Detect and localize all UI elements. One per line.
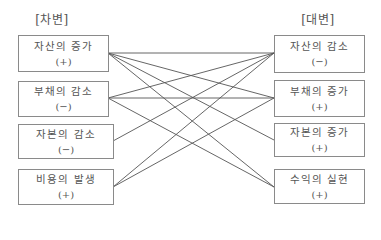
credit-box-asset-decrease: 자산의 감소 (−) — [274, 35, 365, 73]
box-sign: (+) — [311, 99, 327, 114]
box-label: 부채의 증가 — [290, 84, 349, 99]
box-sign: (−) — [311, 54, 327, 69]
line-expense-to-asset-dec — [113, 53, 274, 187]
credit-box-revenue-realized: 수익의 실현 (+) — [274, 169, 365, 204]
box-sign: (−) — [58, 142, 74, 157]
credit-box-liability-increase: 부채의 증가 (+) — [274, 80, 365, 117]
box-label: 수익의 실현 — [290, 172, 349, 187]
box-label: 자본의 감소 — [36, 127, 95, 142]
box-sign: (+) — [311, 140, 327, 155]
line-asset-inc-to-revenue — [108, 53, 274, 187]
box-label: 부채의 감소 — [34, 84, 93, 99]
debit-box-liability-decrease: 부채의 감소 (−) — [18, 81, 109, 117]
box-sign: (+) — [55, 54, 71, 69]
debit-box-expense-incurred: 비용의 발생 (+) — [18, 169, 114, 205]
box-label: 자산의 감소 — [290, 39, 349, 54]
box-label: 자본의 증가 — [290, 125, 349, 140]
credit-box-equity-increase: 자본의 증가 (+) — [274, 123, 365, 157]
debit-box-asset-increase: 자산의 증가 (+) — [18, 35, 109, 72]
debit-box-equity-decrease: 자본의 감소 (−) — [18, 124, 114, 159]
box-sign: (+) — [58, 187, 74, 202]
line-asset-inc-to-equity-inc — [108, 53, 274, 140]
box-label: 자산의 증가 — [34, 39, 93, 54]
box-label: 비용의 발생 — [36, 172, 95, 187]
box-sign: (−) — [55, 99, 71, 114]
box-sign: (+) — [311, 187, 327, 202]
